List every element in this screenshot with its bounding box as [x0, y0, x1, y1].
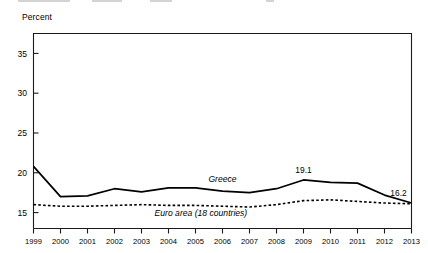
plot-frame	[34, 34, 412, 229]
y-tick-label: 15	[18, 208, 28, 218]
x-tick-label: 2007	[241, 237, 258, 246]
x-tick-label: 2000	[52, 237, 69, 246]
x-tick-label: 2004	[160, 237, 177, 246]
x-tick-label: 2012	[376, 237, 393, 246]
value-label-end: 16.2	[390, 188, 407, 198]
y-tick-label: 35	[18, 49, 28, 59]
chart-container: Percent 15202530351999200020012002200320…	[0, 0, 428, 253]
y-tick-label: 25	[18, 128, 28, 138]
value-label-peak: 19.1	[295, 165, 312, 175]
y-tick-label: 30	[18, 88, 28, 98]
x-tick-label: 2003	[133, 237, 150, 246]
x-tick-label: 2013	[403, 237, 420, 246]
x-tick-label: 2009	[295, 237, 312, 246]
x-tick-label: 2010	[322, 237, 339, 246]
x-tick-label: 1999	[25, 237, 42, 246]
x-tick-label: 2006	[214, 237, 231, 246]
series-line-euro-area	[34, 200, 412, 207]
series-label-greece: Greece	[208, 174, 236, 184]
x-tick-label: 2008	[268, 237, 285, 246]
series-line-greece	[34, 166, 412, 203]
x-tick-label: 2001	[79, 237, 96, 246]
x-tick-label: 2002	[106, 237, 123, 246]
series-label-euro-area: Euro area (18 countries)	[155, 208, 248, 218]
y-tick-label: 20	[18, 168, 28, 178]
x-tick-label: 2005	[187, 237, 204, 246]
chart-plot: 1520253035199920002001200220032004200520…	[0, 0, 428, 253]
x-tick-label: 2011	[349, 237, 365, 246]
